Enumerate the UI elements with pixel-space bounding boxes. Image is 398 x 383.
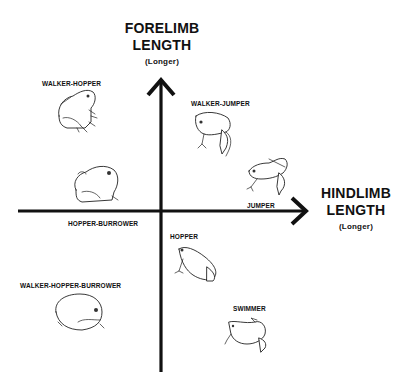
swimmer-frog-icon xyxy=(225,318,266,352)
jumper-frog-icon xyxy=(247,158,287,195)
walker-hopper-frog-icon xyxy=(59,90,97,132)
hopper-burrower-frog-icon xyxy=(75,166,118,202)
diagram-canvas xyxy=(0,0,398,383)
walker-hopper-burrower-frog-icon xyxy=(56,294,104,330)
hopper-frog-icon xyxy=(175,247,216,281)
y-axis xyxy=(148,80,174,372)
walker-jumper-frog-icon xyxy=(195,112,230,156)
